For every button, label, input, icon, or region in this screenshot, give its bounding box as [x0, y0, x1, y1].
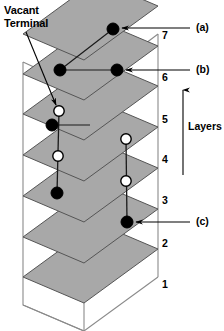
terminal-open-l4-right	[121, 134, 131, 144]
vacant-terminal-label: Vacant Terminal	[4, 4, 48, 30]
terminal-open-l5	[54, 106, 64, 116]
layers-axis-label: Layers	[188, 120, 222, 132]
terminal-filled-l5	[46, 119, 58, 131]
stacked-layers-diagram	[0, 0, 224, 331]
terminal-filled-l6-right	[111, 64, 123, 76]
terminal-open-l3-right	[121, 176, 131, 186]
layer-planes	[23, 0, 158, 303]
layer-number-2: 2	[162, 237, 168, 249]
layer-number-1: 1	[162, 278, 168, 290]
layer-number-5: 5	[162, 113, 168, 125]
terminal-open-l4-left	[53, 151, 63, 161]
terminal-filled-l6-left	[54, 64, 66, 76]
terminal-filled-l7	[107, 23, 119, 35]
layer-number-4: 4	[162, 153, 168, 165]
callout-label-c: (c)	[196, 215, 209, 227]
callout-label-a: (a)	[196, 21, 209, 33]
terminal-filled-l3	[51, 187, 63, 199]
layer-number-7: 7	[162, 29, 168, 41]
callout-label-b: (b)	[196, 63, 209, 75]
figure-canvas: Vacant Terminal Layers (a) (b) (c) 7 6 5…	[0, 0, 224, 331]
terminal-filled-l2	[121, 216, 133, 228]
layer-number-3: 3	[162, 194, 168, 206]
layer-number-6: 6	[162, 71, 168, 83]
